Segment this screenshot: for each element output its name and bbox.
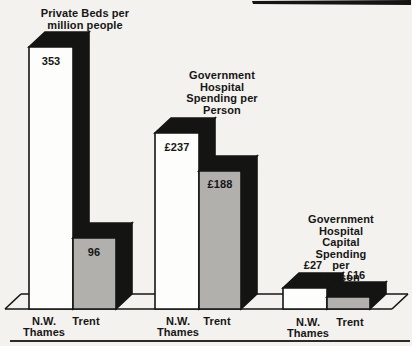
floor-left-cap xyxy=(5,294,21,309)
bar-side-face-g1-s1 xyxy=(241,156,257,309)
bottom-rule xyxy=(10,340,410,342)
bar-front-face-g0-s0 xyxy=(29,47,73,309)
bar-front-face-g1-s0 xyxy=(155,133,199,309)
value-label-private-beds-nw-thames: 353 xyxy=(42,56,61,67)
value-label-spending-nw-thames: £237 xyxy=(165,142,190,153)
floor-right-cap xyxy=(392,294,408,309)
value-label-capital-nw-thames: £27 xyxy=(304,260,323,271)
category-label-g3-trent: Trent xyxy=(323,317,377,328)
chart-figure: Private Beds per million people Governme… xyxy=(0,0,412,346)
bar-front-face-g2-s1 xyxy=(327,297,370,309)
category-label-g2-trent: Trent xyxy=(190,316,244,327)
bar-front-face-g2-s0 xyxy=(283,288,327,309)
group-title-hospital-spending: Government Hospital Spending per Person xyxy=(186,70,257,116)
value-label-private-beds-trent: 96 xyxy=(88,247,100,258)
value-label-spending-trent: £188 xyxy=(208,179,233,190)
group-title-private-beds: Private Beds per million people xyxy=(41,8,129,31)
value-label-capital-trent: £16 xyxy=(347,270,366,281)
chart-canvas xyxy=(0,0,412,346)
group-title-capital-spending: Government Hospital Capital Spending per… xyxy=(306,214,377,283)
bar-front-face-g1-s1 xyxy=(199,171,241,309)
bar-side-face-g0-s1 xyxy=(116,223,132,309)
scan-streak-artifact xyxy=(252,0,411,5)
category-label-g1-trent: Trent xyxy=(59,316,113,327)
